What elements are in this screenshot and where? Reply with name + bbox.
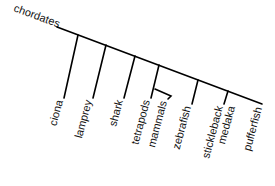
taxon-label-lamprey: lamprey <box>72 98 94 139</box>
branch-stickleback-medaka <box>224 91 228 104</box>
taxon-label-zebrafish: zebrafish <box>170 104 193 150</box>
branch-tetrapods <box>151 65 159 98</box>
root-label: chordates <box>12 2 62 30</box>
branch-lamprey <box>93 45 106 98</box>
branch-shark <box>124 56 135 98</box>
branch-mammals <box>155 89 171 99</box>
cladogram: chordates ciona lamprey shark tetrapods … <box>0 0 275 186</box>
branch-ciona <box>64 35 78 98</box>
branch-zebrafish <box>192 80 198 104</box>
taxon-label-ciona: ciona <box>47 98 66 127</box>
taxon-label-shark: shark <box>106 98 125 128</box>
taxon-label-pufferfish: pufferfish <box>241 105 264 152</box>
